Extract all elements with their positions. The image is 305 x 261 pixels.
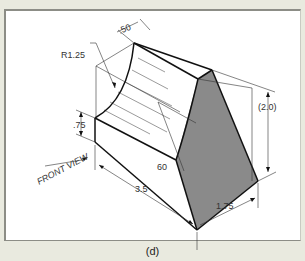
surface-hatching — [104, 58, 172, 134]
dim-top-width: .50 — [117, 22, 132, 36]
figure-caption: (d) — [0, 245, 305, 257]
dim-overall-height: (2.0) — [258, 102, 277, 112]
dim-depth: 1.75 — [216, 201, 234, 211]
dim-angle: 60 — [157, 162, 167, 172]
front-view-label: FRONT VIEW — [35, 151, 91, 187]
isometric-drawing: .50 R1.25 .75 60 3.5 1.75 (2.0) FRONT VI… — [0, 0, 305, 261]
dim-radius: R1.25 — [61, 50, 85, 60]
dim-left-height: .75 — [73, 120, 86, 130]
dim-length: 3.5 — [135, 184, 148, 194]
